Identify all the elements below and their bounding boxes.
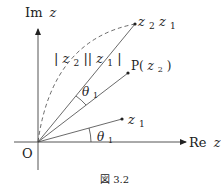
angle-arc-bottom [89,128,91,142]
point-z1 [120,117,123,120]
point-z2z1 [133,22,136,25]
theta-bottom-label: θ 1 [97,130,113,145]
complex-plane-diagram: Im z Re z O z 1 P( z 2 ) z 2 z 1 | z 2 |… [0,0,221,191]
modulus-label: | z 2 || z 1 | [54,51,122,69]
z1-label: z 1 [127,112,145,129]
ray-p [38,73,128,142]
re-axis-label: Re z [189,135,221,150]
figure-caption: 図 3.2 [100,174,129,185]
origin-label: O [22,146,33,161]
im-axis-label: Im z [25,5,57,20]
p-label: P( z 2 ) [131,59,171,75]
ray-z2z1 [38,24,135,142]
theta-top-label: θ 1 [82,85,98,100]
z2z1-label: z 2 z 1 [137,14,176,32]
point-p [126,71,129,74]
